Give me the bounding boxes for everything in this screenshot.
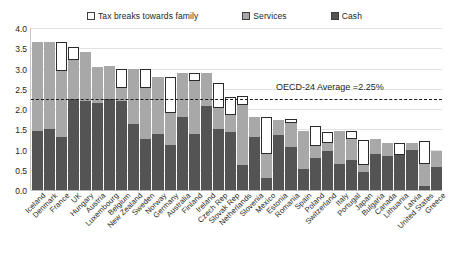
bar-column[interactable] [249, 28, 260, 190]
bar-column[interactable] [104, 28, 115, 190]
y-axis-tick-label: 4.0 [15, 24, 27, 34]
bar-column[interactable] [394, 28, 405, 190]
bar-column[interactable] [370, 28, 381, 190]
bar-column[interactable] [310, 28, 321, 190]
bar-segment-tax-breaks [165, 77, 176, 113]
y-axis-tick-label: 3.5 [15, 44, 27, 54]
bar-segment-cash [334, 164, 345, 190]
bar-column[interactable] [140, 28, 151, 190]
chart-root: Tax breaks towards familyServicesCash 4.… [0, 0, 449, 264]
bar-column[interactable] [285, 28, 296, 190]
bar-segment-cash [213, 129, 224, 190]
bar-segment-cash [298, 169, 309, 190]
bar-segment-cash [165, 145, 176, 190]
bar-column[interactable] [346, 28, 357, 190]
bar-segment-cash [382, 156, 393, 190]
bar-segment-services [32, 42, 43, 131]
bar-segment-cash [358, 172, 369, 190]
bar-column[interactable] [44, 28, 55, 190]
bar-column[interactable] [261, 28, 272, 190]
bar-segment-services [322, 143, 333, 150]
legend-swatch-tax-icon [87, 12, 95, 20]
bar-segment-services [273, 120, 284, 135]
bar-column[interactable] [298, 28, 309, 190]
bar-column[interactable] [237, 28, 248, 190]
bar-segment-cash [346, 160, 357, 190]
legend-label: Tax breaks towards family [98, 11, 198, 21]
bar-segment-services [44, 42, 55, 129]
legend-swatch-services-icon [242, 12, 250, 20]
bar-column[interactable] [382, 28, 393, 190]
bar-segment-cash [116, 101, 127, 190]
bar-column[interactable] [128, 28, 139, 190]
bar-segment-tax-breaks [322, 132, 333, 143]
bar-segment-cash [177, 117, 188, 190]
bar-segment-services [177, 73, 188, 118]
bar-column[interactable] [165, 28, 176, 190]
bar-segment-cash [322, 151, 333, 190]
bar-column[interactable] [56, 28, 67, 190]
legend-item-tax[interactable]: Tax breaks towards family [87, 11, 198, 21]
y-axis-tick-label: 2.5 [15, 85, 27, 95]
bar-segment-services [358, 165, 369, 172]
bar-column[interactable] [32, 28, 43, 190]
bar-column[interactable] [358, 28, 369, 190]
bar-column[interactable] [322, 28, 333, 190]
bar-segment-tax-breaks [419, 141, 430, 163]
bar-segment-tax-breaks [213, 83, 224, 109]
bar-column[interactable] [68, 28, 79, 190]
bar-segment-cash [68, 99, 79, 190]
bar-segment-cash [32, 131, 43, 190]
bar-segment-cash [140, 139, 151, 190]
bar-column[interactable] [419, 28, 430, 190]
bar-column[interactable] [152, 28, 163, 190]
y-axis-tick-label: 0.0 [15, 186, 27, 196]
bar-column[interactable] [177, 28, 188, 190]
legend-label: Services [253, 11, 286, 21]
bar-column[interactable] [116, 28, 127, 190]
bar-segment-cash [370, 154, 381, 190]
bar-segment-tax-breaks [358, 140, 369, 164]
plot-area: 4.03.53.02.52.01.51.00.50.0OECD-24 Avera… [30, 28, 442, 190]
bar-segment-services [104, 66, 115, 98]
y-axis-tick-label: 3.0 [15, 65, 27, 75]
x-axis-labels: IcelandDenmarkFranceUKHungaryAustriaLuxe… [30, 191, 442, 263]
bar-column[interactable] [225, 28, 236, 190]
y-axis-tick-label: 1.0 [15, 146, 27, 156]
bar-column[interactable] [213, 28, 224, 190]
legend-item-services[interactable]: Services [242, 11, 286, 21]
bar-segment-services [225, 115, 236, 132]
legend-item-cash[interactable]: Cash [331, 11, 362, 21]
bar-segment-services [310, 146, 321, 158]
bar-segment-services [152, 77, 163, 135]
bar-segment-services [237, 105, 248, 165]
bar-segment-cash [56, 137, 67, 190]
bar-column[interactable] [80, 28, 91, 190]
bar-segment-cash [273, 135, 284, 190]
bar-segment-services [165, 113, 176, 145]
bar-segment-cash [225, 132, 236, 190]
bar-column[interactable] [406, 28, 417, 190]
bar-segment-cash [285, 147, 296, 190]
bar-column[interactable] [92, 28, 103, 190]
bar-segment-services [431, 151, 442, 167]
bar-segment-services [249, 117, 260, 137]
bar-segment-services [370, 139, 381, 153]
bar-segment-cash [92, 103, 103, 190]
bar-segment-services [201, 73, 212, 106]
bar-segment-services [346, 139, 357, 160]
bar-column[interactable] [334, 28, 345, 190]
bar-column[interactable] [189, 28, 200, 190]
bar-segment-cash [237, 165, 248, 191]
bar-column[interactable] [273, 28, 284, 190]
bar-segment-cash [80, 101, 91, 190]
bar-segment-services [128, 69, 139, 124]
bar-segment-cash [104, 99, 115, 190]
bar-segment-services [334, 131, 345, 163]
bar-segment-services [406, 143, 417, 150]
bar-segment-services [68, 60, 79, 99]
bar-column[interactable] [201, 28, 212, 190]
bar-column[interactable] [431, 28, 442, 190]
bar-segment-cash [394, 155, 405, 190]
bar-segment-services [285, 123, 296, 147]
